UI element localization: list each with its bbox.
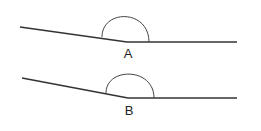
left-ray-b bbox=[22, 78, 128, 98]
angle-figure-a bbox=[20, 17, 237, 42]
left-ray-a bbox=[20, 27, 127, 42]
angle-diagram: A B bbox=[0, 0, 261, 131]
angle-figure-b bbox=[22, 74, 237, 98]
angle-arc-a bbox=[102, 17, 149, 42]
vertex-label-a: A bbox=[124, 47, 133, 60]
vertex-label-b: B bbox=[125, 104, 134, 117]
